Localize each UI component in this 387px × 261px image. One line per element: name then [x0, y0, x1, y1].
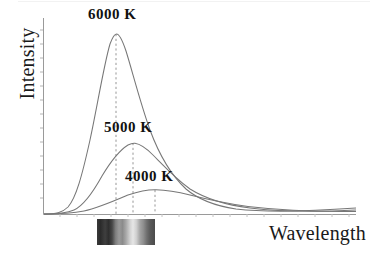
curve-6000k — [44, 34, 356, 214]
x-axis-label: Wavelength — [269, 222, 366, 245]
visible-spectrum-bar — [97, 219, 155, 245]
y-axis-label: Intensity — [16, 4, 39, 124]
curve-label-6000k: 6000 K — [88, 6, 136, 23]
curve-label-5000k: 5000 K — [104, 119, 152, 136]
curve-5000k — [44, 143, 356, 214]
y-axis-ticks — [40, 30, 43, 198]
blackbody-radiation-figure: Intensity Wavelength 6000 K 5000 K 4000 … — [0, 0, 387, 261]
curve-label-4000k: 4000 K — [125, 168, 173, 185]
